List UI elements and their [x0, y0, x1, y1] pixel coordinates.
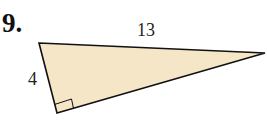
hypotenuse-label: 13 — [137, 21, 155, 39]
diagram-canvas: 9. 13 4 — [0, 0, 267, 124]
right-triangle-figure — [0, 0, 267, 124]
leg-label: 4 — [28, 70, 37, 88]
triangle-shape — [39, 43, 265, 113]
